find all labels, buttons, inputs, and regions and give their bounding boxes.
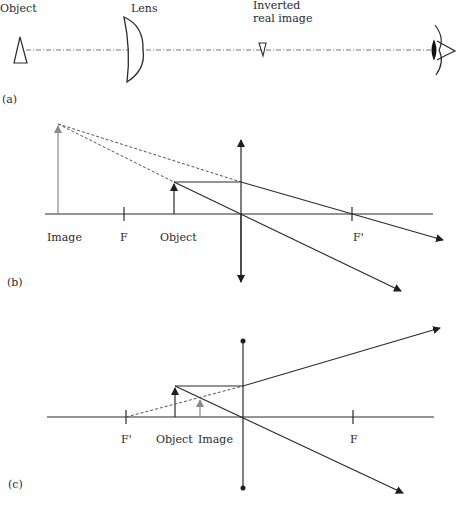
dashed-ray-1-b (58, 124, 241, 182)
panel-label-b: (b) (7, 276, 23, 289)
lens-icon (124, 17, 143, 82)
parallel-ray-c (175, 328, 440, 386)
object-label-c: Object (156, 433, 193, 446)
focal-left-label-c: F' (121, 433, 132, 446)
inverted-label-a: Inverted (253, 0, 300, 12)
lens-label-a: Lens (131, 2, 158, 15)
object-label-a: Object (0, 2, 37, 15)
lens-end-top-c (241, 339, 246, 344)
panel-label-c: (c) (8, 478, 23, 491)
real-image-label-a: real image (253, 12, 312, 25)
parallel-ray-b (174, 182, 443, 240)
lens-end-bottom-c (241, 486, 246, 491)
panel-a: Object Lens Inverted real image (a) (0, 0, 455, 106)
eye-icon (433, 25, 456, 75)
focal-right-label-c: F (350, 433, 358, 446)
optics-diagram: Object Lens Inverted real image (a) Imag… (0, 0, 459, 505)
focal-right-label-b: F' (353, 231, 364, 244)
object-triangle-icon (14, 37, 27, 63)
central-ray-b (174, 182, 401, 291)
panel-c: F' Object Image F (c) (8, 328, 440, 493)
panel-label-a: (a) (2, 93, 17, 106)
dashed-ray-2-b (58, 124, 174, 182)
inverted-image-triangle-icon (259, 43, 266, 56)
focal-left-label-b: F (120, 231, 128, 244)
object-label-b: Object (160, 231, 197, 244)
panel-b: Image F Object F' (b) (7, 124, 443, 291)
image-label-b: Image (47, 231, 82, 244)
image-label-c: Image (198, 433, 233, 446)
